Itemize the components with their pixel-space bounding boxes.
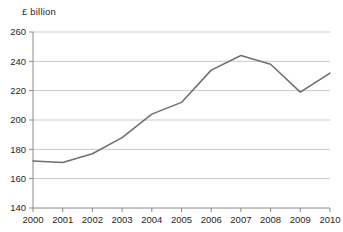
data-series-line	[33, 55, 330, 162]
x-axis-ticks-group: 2000200120022003200420052006200720082009…	[22, 208, 340, 225]
x-axis-tick-label: 2006	[201, 214, 222, 225]
y-axis-tick-label: 180	[10, 144, 26, 155]
y-axis-tick-label: 260	[10, 26, 26, 37]
y-axis-tick-label: 200	[10, 114, 26, 125]
x-axis-tick-label: 2007	[230, 214, 251, 225]
y-axis-ticks-group: 140160180200220240260	[10, 26, 33, 213]
chart-plot-area: 140160180200220240260 200020012002200320…	[0, 0, 343, 232]
y-axis-tick-label: 140	[10, 202, 26, 213]
x-axis-tick-label: 2009	[290, 214, 311, 225]
y-axis-tick-label: 240	[10, 56, 26, 67]
line-chart-figure: £ billion 140160180200220240260 20002001…	[0, 0, 343, 232]
x-axis-tick-label: 2000	[22, 214, 43, 225]
x-axis-tick-label: 2008	[260, 214, 281, 225]
gridlines-group	[33, 32, 330, 179]
x-axis-tick-label: 2002	[82, 214, 103, 225]
y-axis-tick-label: 160	[10, 173, 26, 184]
x-axis-tick-label: 2005	[171, 214, 192, 225]
x-axis-tick-label: 2003	[112, 214, 133, 225]
x-axis-tick-label: 2001	[52, 214, 73, 225]
x-axis-tick-label: 2004	[141, 214, 162, 225]
x-axis-tick-label: 2010	[319, 214, 340, 225]
y-axis-tick-label: 220	[10, 85, 26, 96]
